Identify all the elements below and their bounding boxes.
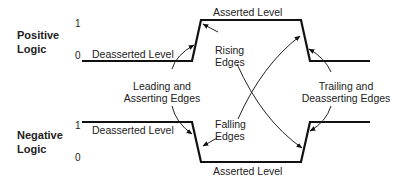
positive-logic-label-line1: Positive bbox=[17, 28, 59, 42]
negative-logic-label-line2: Logic bbox=[17, 142, 63, 156]
falling-edges-line1: Falling bbox=[215, 118, 255, 130]
trailing-edges-line2: Deasserting Edges bbox=[296, 92, 394, 104]
trailing-deasserting-edges-label: Trailing and Deasserting Edges bbox=[296, 80, 394, 104]
positive-deasserted-label: Deasserted Level bbox=[92, 48, 174, 60]
negative-logic-label: Negative Logic bbox=[17, 128, 63, 156]
negative-asserted-label: Asserted Level bbox=[213, 165, 282, 177]
leading-asserting-edges-label: Leading and Asserting Edges bbox=[112, 80, 212, 104]
leading-arrow-down bbox=[172, 106, 192, 134]
rising-edges-line1: Rising bbox=[215, 44, 255, 56]
positive-tick-high: 1 bbox=[75, 18, 81, 29]
rising-arrow-to-positive bbox=[203, 24, 218, 32]
positive-logic-label: Positive Logic bbox=[17, 28, 59, 56]
positive-tick-low: 0 bbox=[75, 50, 81, 61]
trailing-arrow-down bbox=[310, 106, 331, 131]
rising-edges-label: Rising Edges bbox=[215, 44, 255, 68]
falling-edges-label: Falling Edges bbox=[215, 118, 255, 142]
positive-logic-label-line2: Logic bbox=[17, 42, 59, 56]
leading-edges-line2: Asserting Edges bbox=[112, 92, 212, 104]
negative-logic-label-line1: Negative bbox=[17, 128, 63, 142]
negative-tick-low: 0 bbox=[75, 152, 81, 163]
leading-arrow-up bbox=[172, 45, 194, 69]
leading-edges-line1: Leading and bbox=[112, 80, 212, 92]
negative-deasserted-label: Deasserted Level bbox=[92, 124, 174, 136]
rising-edges-line2: Edges bbox=[215, 56, 255, 68]
trailing-edges-line1: Trailing and bbox=[296, 80, 394, 92]
falling-edges-line2: Edges bbox=[215, 130, 255, 142]
negative-tick-high: 1 bbox=[75, 120, 81, 131]
positive-asserted-label: Asserted Level bbox=[213, 6, 282, 18]
